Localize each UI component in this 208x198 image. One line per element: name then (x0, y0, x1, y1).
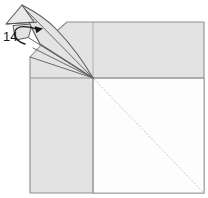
origami-diagram: 14 (0, 0, 208, 198)
step-number-label: 14 (3, 29, 17, 44)
origami-step-figure: 14 (0, 0, 208, 198)
